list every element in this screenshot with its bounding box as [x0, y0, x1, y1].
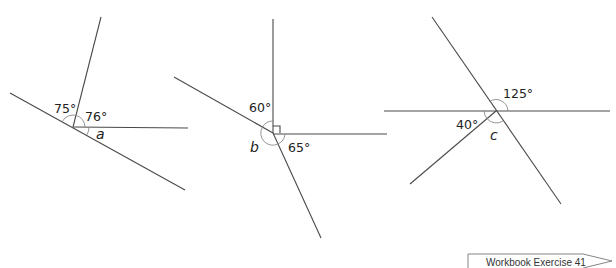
- angles-worksheet: 75° 76° a 60° 65° b: [0, 0, 616, 268]
- figure-c-lower-left-ray: [410, 111, 496, 184]
- figure-a: 75° 76° a: [10, 17, 188, 190]
- figure-b-arc-b: [261, 127, 278, 145]
- figure-a-arc-76: [76, 115, 85, 127]
- figure-b-arc-60: [263, 121, 274, 127]
- figure-b-unknown-b-label: b: [250, 139, 259, 155]
- figure-a-angle-76-label: 76°: [85, 109, 107, 124]
- figure-c-arc-c: [487, 119, 503, 123]
- figure-a-angle-75-label: 75°: [54, 101, 76, 116]
- figure-b-right-angle-marker: [273, 126, 280, 133]
- figure-c-unknown-c-label: c: [490, 127, 498, 143]
- figure-b-arc-65: [278, 134, 285, 144]
- figure-a-unknown-a-label: a: [96, 126, 105, 142]
- diagram-canvas: 75° 76° a 60° 65° b: [0, 0, 616, 268]
- figure-b-angle-60-label: 60°: [249, 100, 271, 115]
- workbook-exercise-tag: Workbook Exercise 41: [468, 254, 612, 268]
- figure-a-arc-a: [87, 127, 89, 135]
- figure-c-angle-125-label: 125°: [503, 86, 533, 101]
- figure-c-arc-40: [484, 111, 487, 119]
- figure-a-horizontal-ray: [73, 127, 188, 128]
- figure-c-angle-40-label: 40°: [456, 117, 478, 132]
- workbook-exercise-label: Workbook Exercise 41: [486, 257, 586, 268]
- figure-b-angle-65-label: 65°: [288, 140, 310, 155]
- figure-b: 60° 65° b: [174, 19, 387, 238]
- figure-c: 125° 40° c: [384, 17, 610, 204]
